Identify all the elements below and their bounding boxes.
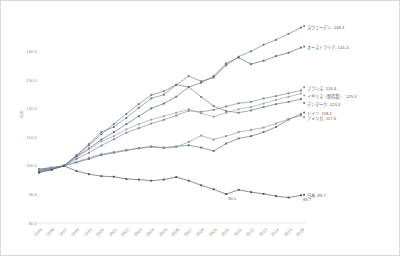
series-label-marker	[303, 102, 305, 104]
data-point-marker	[100, 140, 102, 142]
data-point-marker	[238, 102, 240, 104]
data-point-marker	[88, 144, 90, 146]
data-point-marker	[263, 60, 265, 62]
series-label-france: フランス, 126.4	[307, 85, 336, 91]
series-label-denmark: デンマーク, 123.4	[307, 101, 340, 107]
data-point-marker	[138, 115, 140, 117]
data-point-marker	[225, 112, 227, 114]
data-point-marker	[213, 139, 215, 141]
data-point-marker	[225, 110, 227, 112]
data-point-marker	[175, 84, 177, 86]
data-point-marker	[300, 47, 302, 49]
data-point-marker	[213, 116, 215, 118]
data-point-marker	[138, 123, 140, 125]
data-point-marker	[250, 109, 252, 111]
data-point-marker	[175, 146, 177, 148]
data-point-marker	[138, 127, 140, 129]
data-point-marker	[288, 52, 290, 54]
data-point-marker	[188, 180, 190, 182]
data-point-marker	[263, 131, 265, 133]
data-point-marker	[288, 92, 290, 94]
series-line	[39, 90, 301, 170]
data-point-marker	[150, 119, 152, 121]
data-point-marker	[125, 128, 127, 130]
data-point-marker	[225, 63, 227, 65]
data-point-marker	[238, 131, 240, 133]
data-point-marker	[213, 109, 215, 111]
annotation-90-1: 90.1	[228, 196, 236, 201]
data-point-marker	[125, 123, 127, 125]
data-point-marker	[113, 135, 115, 137]
series-label-marker	[303, 94, 305, 96]
data-point-marker	[113, 123, 115, 125]
series-line	[39, 116, 301, 170]
data-point-marker	[163, 103, 165, 105]
data-point-marker	[125, 149, 127, 151]
data-point-marker	[100, 175, 102, 177]
data-point-marker	[150, 123, 152, 125]
series-イギリス（製造業）	[38, 93, 302, 171]
data-point-marker	[51, 169, 53, 171]
data-point-marker	[100, 145, 102, 147]
series-label-marker	[303, 194, 305, 196]
series-日本	[38, 165, 302, 199]
data-point-marker	[138, 107, 140, 109]
data-point-marker	[75, 155, 77, 157]
data-point-marker	[125, 113, 127, 115]
chart-container: 指数 80.090.0100.0110.0120.0130.0140.0 199…	[0, 0, 400, 256]
data-point-marker	[200, 184, 202, 186]
data-point-marker	[51, 167, 53, 169]
series-label-marker	[303, 86, 305, 88]
data-point-marker	[288, 33, 290, 35]
series-label-marker	[303, 46, 305, 48]
data-point-marker	[288, 118, 290, 120]
series-line	[39, 28, 301, 171]
series-label-marker	[303, 25, 305, 27]
data-point-marker	[75, 170, 77, 172]
data-point-marker	[250, 63, 252, 65]
data-point-marker	[275, 195, 277, 197]
data-point-marker	[225, 143, 227, 145]
data-point-marker	[300, 115, 302, 117]
data-point-marker	[163, 179, 165, 181]
data-point-marker	[213, 105, 215, 107]
data-point-marker	[300, 89, 302, 91]
data-point-marker	[188, 75, 190, 77]
data-point-marker	[275, 55, 277, 57]
data-point-marker	[200, 147, 202, 149]
data-point-marker	[100, 133, 102, 135]
series-label-australia: オーストラリア, 141.4	[307, 44, 349, 50]
data-point-marker	[100, 153, 102, 155]
data-point-marker	[213, 150, 215, 152]
data-point-marker	[175, 112, 177, 114]
data-point-marker	[275, 103, 277, 105]
data-point-marker	[138, 179, 140, 181]
data-point-marker	[125, 132, 127, 134]
data-point-marker	[275, 123, 277, 125]
data-point-marker	[213, 188, 215, 190]
data-point-marker	[113, 138, 115, 140]
data-point-marker	[163, 90, 165, 92]
data-point-marker	[163, 147, 165, 149]
series-line	[39, 114, 301, 169]
data-point-marker	[188, 108, 190, 110]
annotation-89-7: 89.7	[303, 197, 311, 202]
series-フランス	[38, 89, 302, 171]
data-point-marker	[88, 173, 90, 175]
data-point-marker	[225, 105, 227, 107]
data-point-marker	[188, 141, 190, 143]
data-point-marker	[238, 189, 240, 191]
data-point-marker	[250, 106, 252, 108]
data-point-marker	[300, 27, 302, 29]
data-point-marker	[113, 151, 115, 153]
data-point-marker	[125, 117, 127, 119]
data-point-marker	[188, 144, 190, 146]
data-point-marker	[88, 152, 90, 154]
data-point-marker	[275, 99, 277, 101]
data-point-marker	[275, 95, 277, 97]
data-point-marker	[138, 147, 140, 149]
data-point-marker	[163, 115, 165, 117]
data-point-marker	[250, 129, 252, 131]
data-point-marker	[213, 75, 215, 77]
data-point-marker	[175, 115, 177, 117]
